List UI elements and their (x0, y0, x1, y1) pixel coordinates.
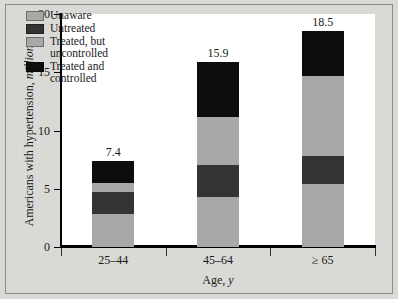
bar-segment (197, 165, 239, 196)
bar-segment (197, 197, 239, 247)
bar-total-label: 18.5 (312, 15, 333, 30)
y-tick-mark (54, 131, 61, 132)
legend-item: Untreated (26, 22, 108, 34)
x-tick-mark (375, 248, 376, 256)
stacked-bar (302, 0, 344, 247)
legend-item: Unaware (26, 9, 108, 21)
y-tick-mark (54, 189, 61, 190)
x-category-label: 45–64 (166, 253, 271, 268)
x-axis-title-italic: y (228, 273, 233, 287)
bar-segment (302, 156, 344, 184)
bar-total-label: 15.9 (208, 46, 229, 61)
bar-segment (92, 192, 134, 214)
legend: UnawareUntreatedTreated, but uncontrolle… (26, 9, 108, 85)
legend-label: Treated and controlled (50, 60, 104, 84)
x-axis-title: Age, y (61, 273, 375, 288)
x-axis-title-prefix: Age, (202, 273, 228, 287)
bar-segment (92, 161, 134, 183)
stacked-bar (197, 0, 239, 247)
legend-swatch-icon (26, 11, 44, 21)
figure-container: 05101520 25–4445–64≥ 65 7.415.918.5 Amer… (0, 0, 398, 299)
legend-swatch-icon (26, 62, 44, 72)
y-axis-title-prefix: Americans with hypertension, (22, 79, 36, 226)
bar-segment (302, 76, 344, 156)
legend-swatch-icon (26, 37, 44, 47)
legend-item: Treated, but uncontrolled (26, 35, 108, 59)
bar-segment (197, 62, 239, 117)
legend-label: Unaware (50, 9, 92, 21)
y-tick-mark (54, 247, 61, 248)
bar-segment (92, 214, 134, 247)
bar-segment (302, 184, 344, 247)
x-category-label: 25–44 (61, 253, 166, 268)
legend-label: Untreated (50, 22, 95, 34)
bar-segment (302, 31, 344, 75)
bar-segment (197, 117, 239, 166)
bar-total-label: 7.4 (106, 145, 121, 160)
legend-item: Treated and controlled (26, 60, 108, 84)
legend-label: Treated, but uncontrolled (50, 35, 108, 59)
x-category-label: ≥ 65 (270, 253, 375, 268)
legend-swatch-icon (26, 24, 44, 34)
bar-segment (92, 183, 134, 192)
